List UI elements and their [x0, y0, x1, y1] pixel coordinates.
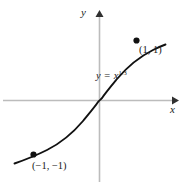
point-marker-upper [133, 37, 139, 43]
equation-variable-y: y [96, 70, 101, 81]
equation-operator: = [103, 70, 111, 81]
function-graph-figure: y x (1, 1) (−1, −1) y = x1/3 [0, 0, 184, 186]
point-label-upper: (1, 1) [139, 45, 162, 56]
equation-exponent: 1/3 [119, 69, 127, 76]
curve-equation-label: y = x1/3 [96, 71, 127, 82]
y-axis-label: y [81, 7, 86, 18]
plot-canvas [0, 0, 184, 186]
cube-root-curve [15, 45, 166, 164]
y-axis-arrowhead [96, 10, 104, 17]
point-label-lower: (−1, −1) [32, 161, 67, 172]
x-axis-label: x [170, 104, 175, 115]
point-marker-lower [30, 151, 36, 157]
